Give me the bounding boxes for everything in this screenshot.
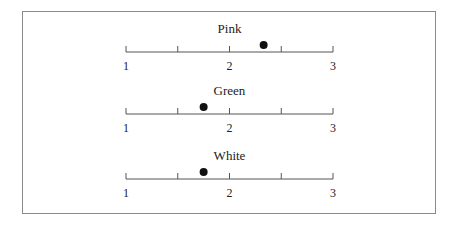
tick-label: 3: [330, 121, 336, 135]
data-point: [200, 168, 208, 176]
panel-title: Pink: [218, 21, 242, 36]
panel-title: White: [214, 148, 246, 163]
tick-label: 3: [330, 186, 336, 200]
tick-label: 1: [123, 121, 129, 135]
tick-label: 2: [227, 121, 233, 135]
tick-label: 1: [123, 186, 129, 200]
tick-label: 1: [123, 59, 129, 73]
tick-label: 2: [227, 186, 233, 200]
dot-plot-chart: Pink123Green123White123: [0, 0, 461, 227]
data-point: [200, 103, 208, 111]
data-point: [260, 41, 268, 49]
tick-label: 2: [227, 59, 233, 73]
tick-label: 3: [330, 59, 336, 73]
panel-title: Green: [214, 83, 246, 98]
